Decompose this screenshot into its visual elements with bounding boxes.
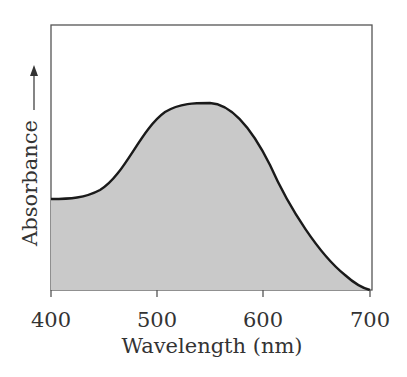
y-axis-label: Absorbance xyxy=(18,120,42,246)
x-tick-label: 700 xyxy=(350,308,390,332)
x-axis-label: Wavelength (nm) xyxy=(121,334,302,358)
up-arrow-icon xyxy=(30,65,38,76)
absorbance-area xyxy=(51,103,370,290)
x-tick-label: 600 xyxy=(243,308,283,332)
x-tick-label: 500 xyxy=(137,308,177,332)
x-tick-label: 400 xyxy=(31,308,71,332)
